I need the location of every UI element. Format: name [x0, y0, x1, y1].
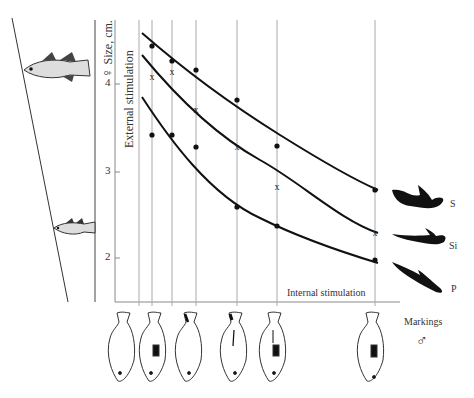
male-fish-5-icon — [259, 312, 285, 381]
male-symbol: ♂ — [416, 332, 428, 350]
curve-label-Si: Si — [449, 240, 457, 251]
curve-Si — [142, 55, 378, 233]
silhouette-Si-icon — [392, 228, 446, 244]
curve-S — [142, 33, 378, 190]
internal-stimulation-label: Internal stimulation — [287, 287, 366, 298]
male-fish-row — [108, 312, 383, 381]
y-tick-label-3: 3 — [105, 164, 111, 176]
male-fish-2-icon — [139, 312, 165, 381]
ethology-diagram: x x x x x x — [0, 0, 474, 398]
svg-text:x: x — [170, 66, 175, 77]
male-fish-4-icon — [220, 312, 246, 381]
svg-text:x: x — [275, 181, 280, 192]
svg-text:x: x — [150, 71, 155, 82]
vertical-gridlines — [139, 20, 375, 306]
external-stimulation-label: External stimulation — [122, 50, 137, 148]
y-axis-title: ♀ Size, cm. — [100, 20, 116, 78]
female-fish-large-icon — [24, 52, 90, 82]
markings-label: Markings — [404, 316, 442, 327]
series-Si-points: x x x x x x — [150, 66, 378, 238]
male-fish-3-icon — [175, 312, 201, 381]
y-tick-label-4: 4 — [105, 76, 111, 88]
curve-label-S: S — [450, 198, 456, 209]
silhouette-P-icon — [392, 262, 442, 293]
series-S-points — [149, 43, 377, 192]
svg-text:x: x — [373, 227, 378, 238]
svg-text:x: x — [194, 104, 199, 115]
female-fish-small-icon — [54, 218, 95, 234]
silhouette-S-icon — [392, 185, 443, 208]
male-fish-6-icon — [357, 312, 383, 381]
series-P-points — [149, 132, 377, 262]
svg-text:x: x — [235, 141, 240, 152]
male-fish-1-icon — [108, 312, 134, 381]
y-tick-label-2: 2 — [105, 250, 111, 262]
curve-label-P: P — [451, 283, 457, 294]
